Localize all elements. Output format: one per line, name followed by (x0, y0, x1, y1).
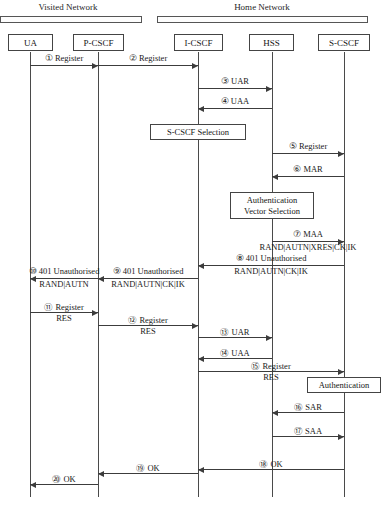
message-line-18 (198, 469, 344, 470)
message-line-20 (30, 484, 98, 485)
actor-box-s-cscf[interactable]: S-CSCF (318, 34, 370, 51)
message-label-5: ⑤ Register (238, 141, 378, 151)
message-payload-10: RAND|AUTN (0, 279, 134, 289)
actor-box-hss[interactable]: HSS (249, 34, 294, 51)
note-box-s-cscf-selection: S-CSCF Selection (150, 124, 246, 140)
message-arrowhead-6 (272, 174, 278, 180)
message-label-6: ⑥ MAR (238, 164, 378, 174)
message-label-10: ⑩ 401 Unauthorised (0, 266, 134, 276)
message-line-5 (272, 153, 344, 154)
message-arrowhead-5 (338, 151, 344, 157)
message-line-17 (272, 436, 344, 437)
note-box-authentication-vector-selection: AuthenticationVector Selection (230, 192, 314, 219)
note-line-s-cscf-selection-1: S-CSCF Selection (167, 127, 229, 138)
message-line-1 (30, 65, 98, 66)
sequence-diagram-canvas: Visited NetworkHome NetworkUAP-CSCFI-CSC… (0, 0, 384, 511)
note-box-authentication: Authentication (307, 377, 381, 393)
message-payload-7: RAND|AUTN|XRES|CK|IK (238, 242, 378, 252)
network-label-visited: Visited Network (8, 2, 128, 12)
message-label-20: ⑳ OK (0, 472, 134, 484)
network-bar-home (157, 16, 368, 23)
message-label-7: ⑦ MAA (238, 229, 378, 239)
note-line-authentication-1: Authentication (319, 380, 370, 391)
message-arrowhead-3 (266, 86, 272, 92)
message-label-8: ⑧ 401 Unauthorised (201, 253, 341, 263)
message-label-11: ⑪ Register (0, 300, 134, 312)
actor-box-ua[interactable]: UA (8, 34, 53, 51)
message-label-12: ⑫ Register (78, 313, 218, 325)
message-line-16 (272, 412, 344, 413)
message-label-4: ④ UAA (165, 96, 305, 106)
actor-box-p-cscf[interactable]: P-CSCF (73, 34, 124, 51)
message-line-4 (198, 108, 272, 109)
message-line-3 (198, 88, 272, 89)
message-line-13 (198, 337, 272, 338)
message-label-15: ⑮ Register (201, 359, 341, 371)
message-payload-8: RAND|AUTN|CK|IK (201, 266, 341, 276)
network-bar-visited (0, 16, 142, 23)
message-label-13: ⑬ UAR (165, 325, 305, 337)
note-line-authentication-vector-selection-1: Authentication (247, 195, 298, 206)
network-label-home: Home Network (202, 2, 322, 12)
message-label-17: ⑰ SAA (238, 424, 378, 436)
message-label-3: ③ UAR (165, 76, 305, 86)
actor-box-i-cscf[interactable]: I-CSCF (174, 34, 223, 51)
message-label-2: ② Register (78, 53, 218, 63)
note-line-authentication-vector-selection-2: Vector Selection (244, 206, 300, 217)
message-label-18: ⑱ OK (201, 457, 341, 469)
message-arrowhead-2 (192, 63, 198, 69)
message-line-6 (272, 176, 344, 177)
message-label-14: ⑭ UAA (165, 346, 305, 358)
message-line-2 (98, 65, 198, 66)
message-arrowhead-4 (198, 106, 204, 112)
message-label-16: ⑯ SAR (238, 400, 378, 412)
